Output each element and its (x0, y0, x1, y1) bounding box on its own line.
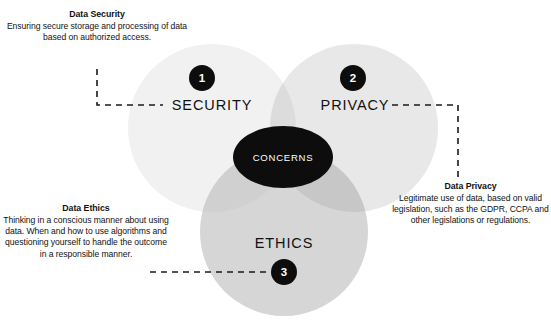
annotation-body-data-security: Ensuring secure storage and processing o… (6, 21, 188, 44)
annotation-title-data-privacy: Data Privacy (390, 180, 551, 192)
annotation-title-data-security: Data Security (6, 8, 188, 20)
annotation-data-security: Data Security Ensuring secure storage an… (6, 8, 188, 43)
concerns-label: CONCERNS (253, 152, 314, 163)
annotation-data-ethics: Data Ethics Thinking in a conscious mann… (2, 202, 170, 260)
circle-label-privacy: PRIVACY (321, 97, 390, 113)
annotation-title-data-ethics: Data Ethics (2, 202, 170, 214)
annotation-body-data-privacy: Legitimate use of data, based on valid l… (390, 193, 551, 227)
venn-diagram: CONCERNS SECURITY PRIVACY ETHICS 1 2 3 D… (0, 0, 551, 325)
badge-number-3: 3 (271, 259, 297, 285)
annotation-body-data-ethics: Thinking in a conscious manner about usi… (2, 215, 170, 261)
annotation-data-privacy: Data Privacy Legitimate use of data, bas… (390, 180, 551, 227)
badge-number-1: 1 (189, 65, 215, 91)
circle-label-ethics: ETHICS (255, 235, 314, 251)
circle-label-security: SECURITY (172, 97, 253, 113)
badge-number-2: 2 (340, 65, 366, 91)
